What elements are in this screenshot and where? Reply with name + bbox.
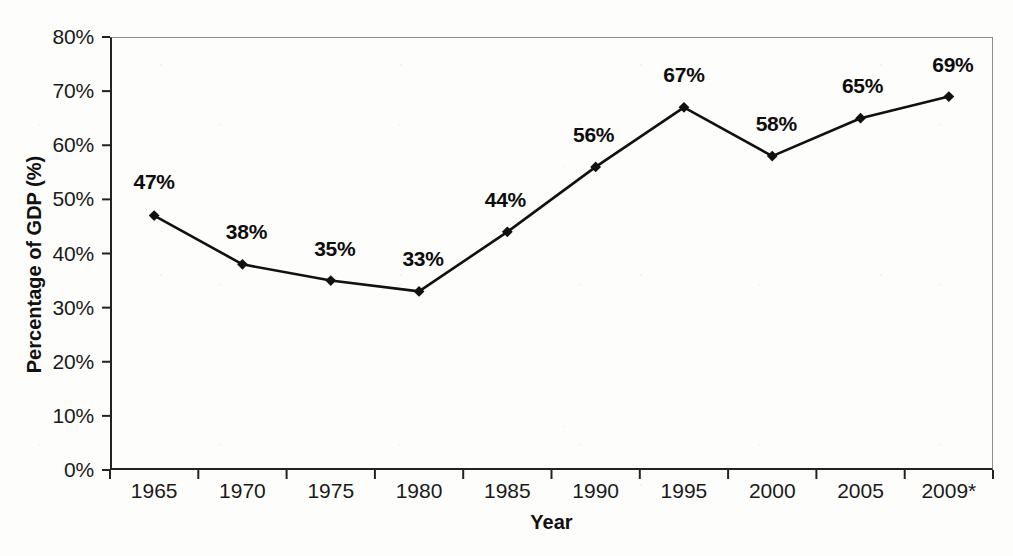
x-axis-title: Year (110, 511, 993, 534)
x-axis-tick-label: 2005 (837, 479, 884, 503)
data-point-label: 67% (663, 63, 704, 87)
data-point-label: 56% (573, 123, 614, 147)
x-axis-tick-labels: 1965197019751980198519901995200020052009… (110, 479, 993, 513)
x-axis-tick-label: 1980 (396, 479, 443, 503)
chart-figure: 0%10%20%30%40%50%60%70%80% Percentage of… (0, 0, 1013, 556)
x-axis-tick-label: 1965 (131, 479, 178, 503)
data-point-label: 38% (226, 220, 267, 244)
x-axis-tick-label: 2009* (921, 479, 976, 503)
data-point-label: 44% (485, 188, 526, 212)
x-axis-tick-label: 1990 (572, 479, 619, 503)
data-point-label: 47% (134, 170, 175, 194)
data-point-labels: 47%38%35%33%44%56%67%58%65%69% (0, 0, 1013, 556)
x-axis-tick-label: 2000 (749, 479, 796, 503)
data-point-label: 69% (932, 53, 973, 77)
data-point-label: 35% (314, 237, 355, 261)
x-axis-tick-label: 1995 (661, 479, 708, 503)
x-axis-tick-label: 1970 (219, 479, 266, 503)
x-axis-tick-label: 1975 (307, 479, 354, 503)
data-point-label: 33% (402, 247, 443, 271)
data-point-label: 65% (842, 74, 883, 98)
x-axis-tick-label: 1985 (484, 479, 531, 503)
data-point-label: 58% (756, 112, 797, 136)
